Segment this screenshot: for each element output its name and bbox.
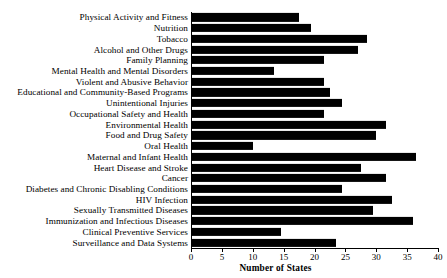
x-tick-label: 35 <box>403 252 412 263</box>
bar-category-label: Clinical Preventive Services <box>83 227 189 237</box>
x-tick-label: 10 <box>248 252 257 263</box>
bar <box>191 153 416 161</box>
bar <box>191 228 281 236</box>
bar <box>191 78 324 86</box>
bar <box>191 13 299 21</box>
bar-category-label: Diabetes and Chronic Disabling Condition… <box>26 184 188 194</box>
x-tick-label: 20 <box>310 252 319 263</box>
bar <box>191 196 392 204</box>
bar <box>191 35 367 43</box>
x-tick-label: 40 <box>434 252 443 263</box>
bar-category-label: Physical Activity and Fitness <box>80 12 188 22</box>
bar-row: Violent and Abusive Behavior <box>0 76 447 87</box>
bar <box>191 163 361 171</box>
bar <box>191 185 342 193</box>
bar-category-label: Occupational Safety and Health <box>69 109 188 119</box>
bar-category-label: Maternal and Infant Health <box>87 152 188 162</box>
bar-category-label: Nutrition <box>154 23 188 33</box>
x-tick-label: 5 <box>220 252 225 263</box>
plot-area: Physical Activity and FitnessNutritionTo… <box>0 0 447 278</box>
bar-category-label: Food and Drug Safety <box>106 130 188 140</box>
bar-category-label: Unintentional Injuries <box>106 98 188 108</box>
bar <box>191 174 386 182</box>
bar-category-label: Oral Health <box>144 141 188 151</box>
bar-category-label: HIV Infection <box>136 195 188 205</box>
bar-category-label: Alcohol and Other Drugs <box>94 45 188 55</box>
bar-row: Clinical Preventive Services <box>0 227 447 238</box>
bar-row: Diabetes and Chronic Disabling Condition… <box>0 184 447 195</box>
x-axis-title: Number of States <box>0 263 447 273</box>
bar-row: Oral Health <box>0 141 447 152</box>
bar-row: Food and Drug Safety <box>0 130 447 141</box>
x-tick-label: 25 <box>341 252 350 263</box>
bar <box>191 239 336 247</box>
bar-row: Maternal and Infant Health <box>0 151 447 162</box>
bar-category-label: Sexually Transmitted Diseases <box>74 205 188 215</box>
bar-row: Cancer <box>0 173 447 184</box>
bar-row: Alcohol and Other Drugs <box>0 44 447 55</box>
bar <box>191 110 324 118</box>
bar-chart: Physical Activity and FitnessNutritionTo… <box>0 0 447 278</box>
bar <box>191 56 324 64</box>
bar-row: Heart Disease and Stroke <box>0 162 447 173</box>
bar-category-label: Educational and Community-Based Programs <box>17 87 188 97</box>
bar <box>191 88 330 96</box>
bar-category-label: Violent and Abusive Behavior <box>76 77 188 87</box>
bar-category-label: Cancer <box>162 173 188 183</box>
bar <box>191 206 373 214</box>
bar <box>191 217 413 225</box>
bar-row: Family Planning <box>0 55 447 66</box>
x-tick-label: 30 <box>372 252 381 263</box>
bar-row: Environmental Health <box>0 119 447 130</box>
bar <box>191 121 386 129</box>
bar-row: Sexually Transmitted Diseases <box>0 205 447 216</box>
bar-row: Unintentional Injuries <box>0 98 447 109</box>
x-tick-label: 15 <box>279 252 288 263</box>
bar-category-label: Heart Disease and Stroke <box>94 163 188 173</box>
bar <box>191 45 358 53</box>
bar-row: Nutrition <box>0 23 447 34</box>
bar <box>191 142 253 150</box>
bar <box>191 67 274 75</box>
bar <box>191 131 376 139</box>
x-axis-title-label: Number of States <box>239 263 311 273</box>
bar-row: Physical Activity and Fitness <box>0 12 447 23</box>
bar-row: Immunization and Infectious Diseases <box>0 216 447 227</box>
bar-row: Mental Health and Mental Disorders <box>0 66 447 77</box>
bar-category-label: Surveillance and Data Systems <box>73 238 189 248</box>
bar-category-label: Environmental Health <box>106 120 188 130</box>
bar-category-label: Mental Health and Mental Disorders <box>52 66 188 76</box>
x-tick-label: 0 <box>189 252 194 263</box>
bar-row: Educational and Community-Based Programs <box>0 87 447 98</box>
bar-row: Occupational Safety and Health <box>0 109 447 120</box>
bar-category-label: Immunization and Infectious Diseases <box>46 216 188 226</box>
bar-category-label: Tobacco <box>157 34 188 44</box>
bar <box>191 99 342 107</box>
bar-category-label: Family Planning <box>126 55 188 65</box>
bar <box>191 24 311 32</box>
bar-row: Tobacco <box>0 33 447 44</box>
bar-row: Surveillance and Data Systems <box>0 237 447 248</box>
bar-row: HIV Infection <box>0 194 447 205</box>
